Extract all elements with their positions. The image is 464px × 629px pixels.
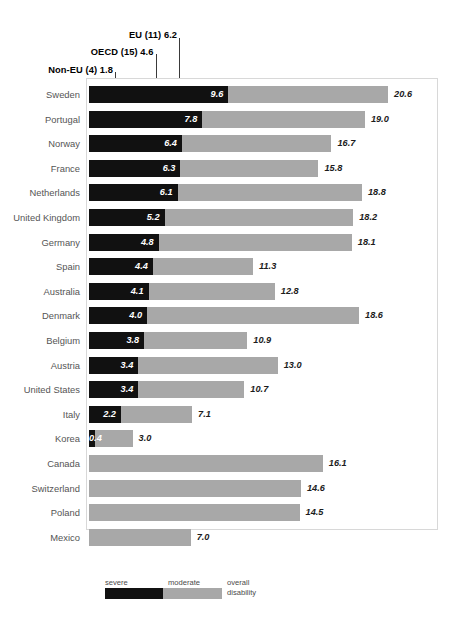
value-overall-switzerland: 14.6 [307,480,325,497]
value-overall-australia: 12.8 [281,283,299,300]
chart-legend: severemoderateoveralldisability [0,0,464,51]
disability-bar-chart: Non-EU (4) 1.8OECD (15) 4.6EU (11) 6.2 S… [0,0,464,629]
value-overall-spain: 11.3 [259,258,276,275]
category-label-korea: Korea [0,430,80,447]
category-label-australia: Australia [0,283,80,300]
bar-row: Portugal7.819.0 [0,111,464,128]
category-label-sweden: Sweden [0,86,80,103]
bar-row: United Kingdom5.218.2 [0,209,464,226]
legend-label-disability: disability [227,588,256,597]
value-severe-denmark: 4.0 [89,307,142,324]
bar-row: Belgium3.810.9 [0,332,464,349]
bar-segment-overall-poland [89,504,300,521]
bar-row: Canada16.1 [0,455,464,472]
bar-row: Norway6.416.7 [0,135,464,152]
value-overall-poland: 14.5 [306,504,324,521]
category-label-portugal: Portugal [0,111,80,128]
value-overall-canada: 16.1 [329,455,347,472]
value-severe-belgium: 3.8 [89,332,139,349]
value-severe-netherlands: 6.1 [89,184,173,201]
bar-row: Germany4.818.1 [0,234,464,251]
bar-row: Spain4.411.3 [0,258,464,275]
bar-row: United States3.410.7 [0,381,464,398]
value-overall-germany: 18.1 [358,234,376,251]
bar-row: Netherlands6.118.8 [0,184,464,201]
bar-row: Sweden9.620.6 [0,86,464,103]
value-overall-norway: 16.7 [337,135,355,152]
value-overall-sweden: 20.6 [394,86,412,103]
value-overall-france: 15.8 [324,160,342,177]
value-severe-spain: 4.4 [89,258,148,275]
value-severe-portugal: 7.8 [89,111,197,128]
value-overall-korea: 3.0 [139,430,152,447]
category-label-switzerland: Switzerland [0,480,80,497]
value-severe-sweden: 9.6 [89,86,223,103]
value-severe-united-kingdom: 5.2 [89,209,160,226]
value-overall-austria: 13.0 [284,357,302,374]
category-label-united-kingdom: United Kingdom [0,209,80,226]
value-overall-netherlands: 18.8 [368,184,386,201]
legend-swatch-severe [105,588,163,599]
category-label-france: France [0,160,80,177]
legend-label-moderate: moderate [168,578,200,587]
bar-row: Denmark4.018.6 [0,307,464,324]
bar-row: Italy2.27.1 [0,406,464,423]
category-label-united-states: United States [0,381,80,398]
value-severe-united-states: 3.4 [89,381,133,398]
value-overall-portugal: 19.0 [371,111,389,128]
value-severe-france: 6.3 [89,160,175,177]
category-label-poland: Poland [0,504,80,521]
reference-label-non-eu-4: Non-EU (4) 1.8 [48,65,113,75]
value-overall-denmark: 18.6 [365,307,383,324]
bar-row: Korea0.43.0 [0,430,464,447]
category-label-belgium: Belgium [0,332,80,349]
category-label-austria: Austria [0,357,80,374]
bar-row: Mexico7.0 [0,529,464,546]
category-label-canada: Canada [0,455,80,472]
value-severe-australia: 4.1 [89,283,144,300]
bar-segment-overall-mexico [89,529,191,546]
legend-swatch-moderate [163,588,222,599]
category-label-denmark: Denmark [0,307,80,324]
value-severe-austria: 3.4 [89,357,133,374]
value-severe-germany: 4.8 [89,234,154,251]
value-overall-italy: 7.1 [198,406,211,423]
bar-segment-overall-switzerland [89,480,301,497]
legend-label-overall: overall [227,578,249,587]
bar-row: France6.315.8 [0,160,464,177]
value-overall-united-states: 10.7 [250,381,268,398]
bar-row: Australia4.112.8 [0,283,464,300]
value-overall-belgium: 10.9 [253,332,271,349]
bar-segment-overall-canada [89,455,323,472]
category-label-italy: Italy [0,406,80,423]
bar-row: Austria3.413.0 [0,357,464,374]
category-label-spain: Spain [0,258,80,275]
category-label-mexico: Mexico [0,529,80,546]
bar-row: Poland14.5 [0,504,464,521]
category-label-netherlands: Netherlands [0,184,80,201]
value-severe-italy: 2.2 [89,406,116,423]
value-overall-united-kingdom: 18.2 [359,209,377,226]
category-label-germany: Germany [0,234,80,251]
value-severe-korea: 0.4 [89,430,99,447]
value-overall-mexico: 7.0 [197,529,210,546]
legend-label-severe: severe [105,578,128,587]
bar-row: Switzerland14.6 [0,480,464,497]
value-severe-norway: 6.4 [89,135,177,152]
category-label-norway: Norway [0,135,80,152]
